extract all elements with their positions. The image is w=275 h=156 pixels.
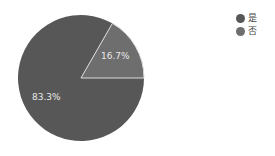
- slice-label-no: 16.7%: [101, 51, 130, 61]
- legend-dot-icon: [236, 14, 245, 23]
- legend-dot-icon: [236, 27, 245, 36]
- legend-item-no[interactable]: 否: [236, 25, 257, 38]
- pie-chart: [0, 0, 275, 156]
- legend-label: 是: [248, 14, 257, 23]
- legend-label: 否: [248, 27, 257, 36]
- legend-item-yes[interactable]: 是: [236, 12, 257, 25]
- legend: 是 否: [236, 12, 257, 38]
- slice-label-yes: 83.3%: [32, 92, 61, 102]
